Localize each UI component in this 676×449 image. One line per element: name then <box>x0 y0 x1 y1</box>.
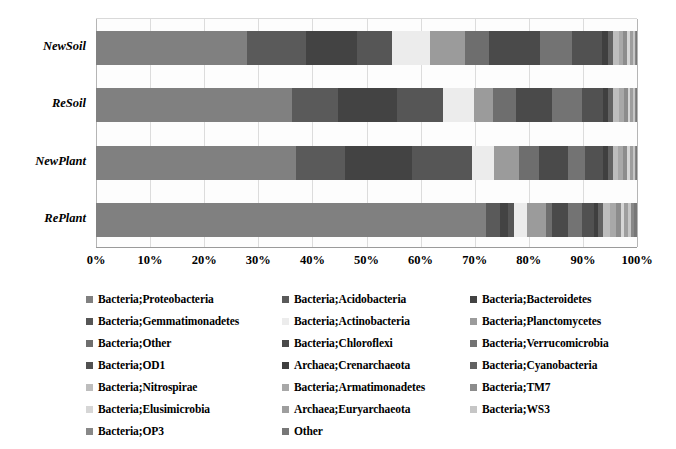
legend-item[interactable]: Bacteria;Elusimicrobia <box>86 403 282 415</box>
plot-wrapper: NewSoilReSoilNewPlantRePlant 0%10%20%30%… <box>0 0 676 278</box>
stacked-bar <box>96 203 637 237</box>
legend-swatch-icon <box>282 406 289 413</box>
x-tick-50: 50% <box>337 253 397 268</box>
x-tick-10: 10% <box>120 253 180 268</box>
legend-item[interactable]: Archaea;Euryarchaeota <box>282 403 470 415</box>
legend-swatch-icon <box>282 384 289 391</box>
legend-swatch-icon <box>86 362 93 369</box>
bar-segment <box>516 88 552 122</box>
bar-segment <box>568 203 582 237</box>
bar-segment <box>603 203 610 237</box>
bar-segment <box>292 88 338 122</box>
legend-item[interactable]: Bacteria;Other <box>86 337 282 349</box>
legend-item[interactable]: Bacteria;Planctomycetes <box>470 315 646 327</box>
bar-segment <box>540 31 572 65</box>
bar-segment <box>634 203 637 237</box>
legend-item[interactable]: Bacteria;Verrucomicrobia <box>470 337 646 349</box>
bar-row-resoil <box>96 88 637 122</box>
bar-segment <box>412 146 471 180</box>
legend-item[interactable]: Bacteria;Acidobacteria <box>282 293 470 305</box>
legend-item[interactable]: Bacteria;WS3 <box>470 403 646 415</box>
x-tick-0: 0% <box>66 253 126 268</box>
x-tick-40: 40% <box>282 253 342 268</box>
bar-segment <box>514 203 527 237</box>
bar-segment <box>430 31 465 65</box>
bar-segment <box>539 146 568 180</box>
category-label-newplant: NewPlant <box>0 155 86 168</box>
bar-segment <box>493 88 517 122</box>
legend-swatch-icon <box>86 296 93 303</box>
category-axis-labels: NewSoilReSoilNewPlantRePlant <box>0 18 92 248</box>
bar-segment <box>397 88 443 122</box>
bar-segment <box>96 31 247 65</box>
bar-segment <box>296 146 345 180</box>
bar-row-newplant <box>96 146 637 180</box>
legend-item[interactable]: Bacteria;Cyanobacteria <box>470 359 646 371</box>
bar-segment <box>392 31 430 65</box>
legend-swatch-icon <box>282 318 289 325</box>
legend-item[interactable]: Bacteria;Chloroflexi <box>282 337 470 349</box>
bar-segment <box>582 88 603 122</box>
legend-item[interactable]: Archaea;Crenarchaeota <box>282 359 470 371</box>
legend-item[interactable]: Bacteria;Nitrospirae <box>86 381 282 393</box>
legend-item[interactable]: Bacteria;Gemmatimonadetes <box>86 315 282 327</box>
bar-segment <box>443 88 474 122</box>
x-tick-90: 90% <box>553 253 613 268</box>
legend-label: Bacteria;Verrucomicrobia <box>482 337 609 349</box>
x-tick-60: 60% <box>391 253 451 268</box>
stacked-bar <box>96 146 637 180</box>
bar-segment <box>96 88 292 122</box>
bar-segment <box>465 31 489 65</box>
legend-label: Bacteria;Gemmatimonadetes <box>98 315 239 327</box>
bar-segment <box>519 146 538 180</box>
bar-segment <box>568 146 585 180</box>
legend-swatch-icon <box>86 318 93 325</box>
legend-item[interactable]: Bacteria;OP3 <box>86 425 282 437</box>
legend-item[interactable]: Bacteria;Bacteroidetes <box>470 293 646 305</box>
bar-segment <box>572 31 602 65</box>
legend-label: Other <box>294 425 323 437</box>
legend-label: Bacteria;Elusimicrobia <box>98 403 210 415</box>
x-axis-tick-labels: 0%10%20%30%40%50%60%70%80%90%100% <box>96 249 637 273</box>
bar-segment <box>247 31 306 65</box>
x-tick-80: 80% <box>499 253 559 268</box>
legend-item[interactable]: Bacteria;Proteobacteria <box>86 293 282 305</box>
legend-item[interactable]: Bacteria;Armatimonadetes <box>282 381 470 393</box>
legend-label: Bacteria;Bacteroidetes <box>482 293 591 305</box>
legend-swatch-icon <box>282 340 289 347</box>
legend-label: Bacteria;Cyanobacteria <box>482 359 597 371</box>
bar-row-newsoil <box>96 31 637 65</box>
bar-segment <box>472 146 495 180</box>
x-tick-30: 30% <box>228 253 288 268</box>
legend-swatch-icon <box>86 406 93 413</box>
plot-area <box>96 18 637 248</box>
bar-segment <box>345 146 413 180</box>
legend-swatch-icon <box>86 384 93 391</box>
legend-label: Bacteria;Proteobacteria <box>98 293 214 305</box>
legend-swatch-icon <box>470 340 477 347</box>
legend-label: Bacteria;Chloroflexi <box>294 337 393 349</box>
legend-swatch-icon <box>86 428 93 435</box>
legend-label: Bacteria;Planctomycetes <box>482 315 601 327</box>
bar-segment <box>474 88 492 122</box>
bar-segment <box>585 146 603 180</box>
bar-row-replant <box>96 203 637 237</box>
legend-swatch-icon <box>282 296 289 303</box>
x-tick-100: 100% <box>607 253 667 268</box>
x-tick-70: 70% <box>445 253 505 268</box>
legend-item[interactable]: Bacteria;Actinobacteria <box>282 315 470 327</box>
bar-segment <box>527 203 545 237</box>
legend-swatch-icon <box>470 362 477 369</box>
legend-label: Bacteria;Nitrospirae <box>98 381 197 393</box>
legend-label: Bacteria;OD1 <box>98 359 165 371</box>
bar-segment <box>96 203 486 237</box>
legend-item[interactable]: Bacteria;TM7 <box>470 381 646 393</box>
legend-label: Archaea;Crenarchaeota <box>294 359 410 371</box>
bar-segment <box>306 31 357 65</box>
legend-item[interactable]: Bacteria;OD1 <box>86 359 282 371</box>
legend-swatch-icon <box>470 318 477 325</box>
bar-segment <box>338 88 397 122</box>
bar-segment <box>582 203 594 237</box>
legend-item[interactable]: Other <box>282 425 470 437</box>
legend-swatch-icon <box>470 296 477 303</box>
